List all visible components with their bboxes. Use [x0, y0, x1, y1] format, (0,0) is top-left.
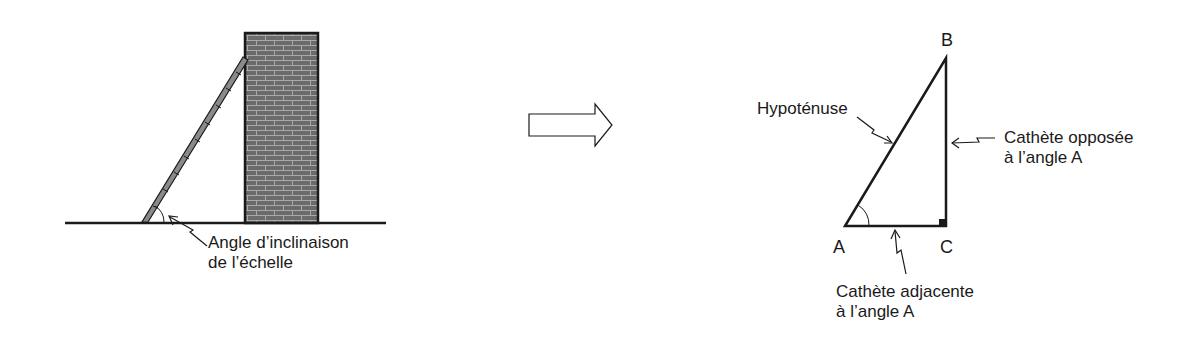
angle-pointer-icon [169, 216, 207, 246]
right-triangle [845, 58, 946, 226]
opposite-pointer-icon [952, 138, 995, 148]
brick-wall [245, 33, 318, 223]
adjacent-label-line2: à l’angle A [836, 302, 915, 321]
angle-label-line2: de l’échelle [208, 253, 293, 272]
vertex-a-label: A [833, 237, 845, 257]
adjacent-label-line1: Cathète adjacente [836, 282, 974, 301]
hypotenuse-pointer-icon [857, 117, 892, 143]
trigonometry-diagram: Angle d’inclinaison de l’échelle B A C H… [0, 0, 1195, 343]
angle-a-arc [858, 205, 869, 226]
opposite-label-line1: Cathète opposée [1004, 128, 1134, 147]
opposite-label-line2: à l’angle A [1004, 148, 1083, 167]
vertex-c-label: C [940, 237, 953, 257]
ladder-scene: Angle d’inclinaison de l’échelle [65, 33, 386, 272]
ladder [142, 57, 248, 222]
angle-label-line1: Angle d’inclinaison [208, 233, 349, 252]
hypotenuse-label: Hypoténuse [757, 99, 848, 118]
right-arrow-icon [529, 104, 612, 146]
adjacent-pointer-icon [891, 230, 906, 274]
right-angle-mark [939, 219, 946, 226]
vertex-b-label: B [941, 30, 953, 50]
right-triangle-scene: B A C Hypoténuse Cathète opposée à l’ang… [757, 30, 1134, 321]
